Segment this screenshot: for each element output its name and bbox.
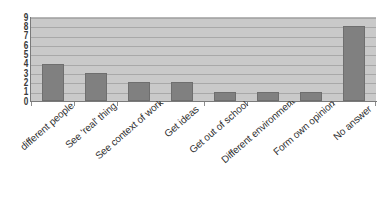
bar [42, 64, 64, 101]
bar [171, 82, 193, 101]
bar [343, 26, 365, 101]
x-category-label: Get ideas [162, 104, 201, 140]
x-category-label: No answer [331, 103, 374, 142]
x-axis-category-labels: different peopleSee 'real' thingSee cont… [0, 101, 391, 199]
bar [128, 82, 150, 101]
bar [300, 92, 322, 101]
bar [257, 92, 279, 101]
bars-group [31, 18, 376, 101]
bar [214, 92, 236, 101]
y-axis-tick-labels: 9876543210 [12, 17, 28, 101]
plot-area [31, 17, 376, 101]
bar-chart: 9876543210 different peopleSee 'real' th… [0, 0, 391, 199]
bar [85, 73, 107, 101]
